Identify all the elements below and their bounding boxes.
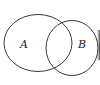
set-a-label: A	[19, 38, 28, 51]
set-b-label: B	[77, 38, 86, 51]
venn-diagram: A B	[0, 0, 100, 85]
